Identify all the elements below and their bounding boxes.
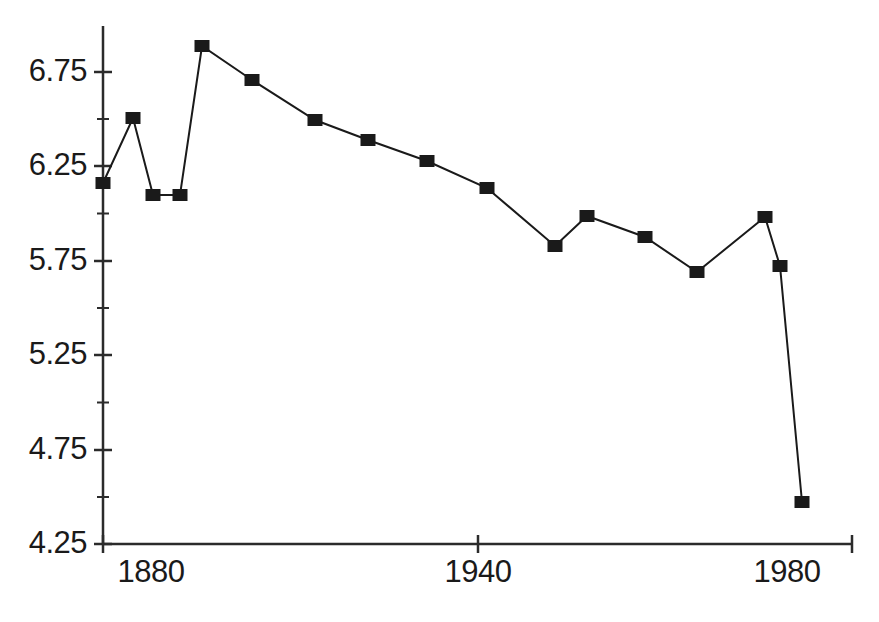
data-point-marker (195, 40, 210, 52)
chart-container: 6.756.255.755.254.754.25 188019401980 (0, 0, 879, 622)
data-point-marker (361, 134, 376, 146)
x-axis-label: 1880 (106, 554, 196, 590)
y-axis-label: 6.25 (29, 147, 87, 183)
data-point-marker (795, 496, 810, 508)
data-point-marker (146, 189, 161, 201)
data-point-marker (638, 231, 653, 243)
line-chart-plot (0, 0, 879, 622)
x-axis-label: 1980 (742, 554, 832, 590)
data-point-marker (420, 155, 435, 167)
data-point-marker (96, 177, 111, 189)
data-point-marker (690, 266, 705, 278)
x-axis-label: 1940 (433, 554, 523, 590)
data-point-marker (126, 112, 141, 124)
series-markers (96, 40, 810, 508)
data-point-marker (308, 114, 323, 126)
y-axis-label: 5.25 (29, 336, 87, 372)
y-axis-label: 4.75 (29, 431, 87, 467)
data-point-marker (480, 182, 495, 194)
axis-group (103, 26, 852, 545)
data-series-group (96, 40, 810, 508)
data-point-marker (548, 240, 563, 252)
data-point-marker (245, 74, 260, 86)
data-point-marker (173, 189, 188, 201)
data-point-marker (758, 211, 773, 223)
y-axis-label: 4.25 (29, 525, 87, 561)
data-point-marker (773, 260, 788, 272)
data-point-marker (580, 210, 595, 222)
y-axis-label: 5.75 (29, 242, 87, 278)
y-axis-label: 6.75 (29, 53, 87, 89)
